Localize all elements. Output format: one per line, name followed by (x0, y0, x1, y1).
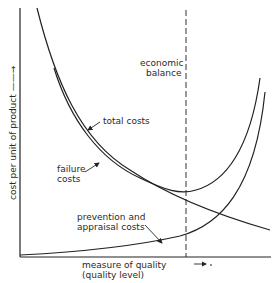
failure-costs-label-2: costs (57, 174, 80, 184)
economic-balance-label-2: balance (146, 68, 181, 78)
total-costs-arrow (88, 122, 100, 130)
chart-canvas (0, 0, 276, 283)
economic-balance-label-1: economic (140, 58, 183, 68)
failure-costs-arrow (85, 163, 99, 172)
failure-costs-curve (37, 8, 270, 230)
total-costs-label: total costs (103, 116, 150, 126)
x-axis-label-1: measure of quality (82, 260, 166, 270)
failure-costs-label-1: failure (57, 164, 85, 174)
x-axis-label-2: (quality level) (82, 270, 144, 280)
y-axis-label: cost per unit of product ——→ (8, 70, 18, 200)
prevention-arrow (145, 225, 162, 243)
prevention-label-2: appraisal costs (77, 222, 145, 232)
prevention-label-1: prevention and (77, 212, 145, 222)
